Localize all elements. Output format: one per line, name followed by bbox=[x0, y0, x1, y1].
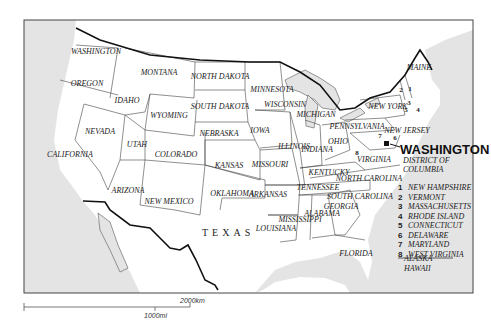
state-label: CALIFORNIA bbox=[47, 151, 93, 159]
legend-label: CONNECTICUT bbox=[406, 221, 463, 230]
legend-number: 6 bbox=[398, 231, 406, 241]
state-label: WASHINGTON bbox=[71, 48, 121, 56]
state-number-marker: 7 bbox=[378, 132, 382, 140]
state-label: LOUISIANA bbox=[256, 225, 296, 233]
legend-item: 2 VERMONT bbox=[398, 193, 471, 203]
state-label: OHIO bbox=[328, 138, 348, 146]
legend-number: 5 bbox=[398, 221, 406, 231]
state-label: VIRGINIA bbox=[357, 156, 391, 164]
legend-number: 4 bbox=[398, 212, 406, 222]
legend-number: 2 bbox=[398, 193, 406, 203]
numbered-legend: 1 NEW HAMPSHIRE2 VERMONT3 MASSACHUSETTS4… bbox=[398, 183, 471, 259]
legend-number: 7 bbox=[398, 240, 406, 250]
state-label: NEW YORK bbox=[368, 103, 407, 111]
capital-subtitle: DISTRICT OF COLUMBIA bbox=[403, 156, 491, 174]
state-label: OREGON bbox=[71, 80, 103, 88]
state-label: MISSOURI bbox=[252, 161, 288, 169]
legend-item: 7 MARYLAND bbox=[398, 240, 471, 250]
scale-bar bbox=[24, 303, 190, 311]
state-label: MINNESOTA bbox=[250, 86, 293, 94]
legend-label: VERMONT bbox=[406, 193, 445, 202]
state-label: ARIZONA bbox=[112, 187, 145, 195]
state-label: SOUTH DAKOTA bbox=[191, 103, 249, 111]
legend-label: MASSACHUSETTS bbox=[406, 202, 471, 211]
legend-label: DELAWARE bbox=[406, 231, 448, 240]
state-number-marker: 5 bbox=[404, 106, 408, 114]
state-number-marker: 6 bbox=[393, 134, 397, 142]
state-label: NEVADA bbox=[85, 128, 115, 136]
legend-item: 3 MASSACHUSETTS bbox=[398, 202, 471, 212]
legend-label: NEW HAMPSHIRE bbox=[406, 183, 471, 192]
state-label: IDAHO bbox=[115, 97, 140, 105]
state-label: COLORADO bbox=[155, 151, 198, 159]
state-label: TENNESSEE bbox=[297, 184, 340, 192]
legend-label: RHODE ISLAND bbox=[406, 212, 464, 221]
state-number-marker: 2 bbox=[399, 86, 403, 94]
legend-label: MARYLAND bbox=[406, 240, 449, 249]
state-label: KANSAS bbox=[215, 162, 243, 170]
state-label: SOUTH CAROLINA bbox=[327, 193, 393, 201]
state-number-marker: 4 bbox=[416, 106, 420, 114]
state-label: PENNSYLVANIA bbox=[329, 123, 384, 131]
extra-states: ALASKA HAWAII bbox=[404, 254, 432, 274]
state-label: NORTH DAKOTA bbox=[191, 73, 250, 81]
state-label: TEXAS bbox=[202, 227, 254, 238]
state-label: UTAH bbox=[127, 141, 147, 149]
legend-number: 1 bbox=[398, 183, 406, 193]
state-label: ALABAMA bbox=[304, 210, 340, 218]
scale-km-label: 2000km bbox=[180, 297, 205, 304]
state-label: FLORIDA bbox=[339, 250, 372, 258]
state-number-marker: 8 bbox=[355, 149, 359, 157]
legend-item: 5 CONNECTICUT bbox=[398, 221, 471, 231]
state-label: IOWA bbox=[250, 127, 269, 135]
state-label: NORTH CAROLINA bbox=[336, 175, 402, 183]
state-label: WYOMING bbox=[150, 112, 187, 120]
capital-label: WASHINGTON bbox=[400, 142, 489, 157]
legend-item: 1 NEW HAMPSHIRE bbox=[398, 183, 471, 193]
legend-item: 6 DELAWARE bbox=[398, 231, 471, 241]
state-label: MICHIGAN bbox=[296, 111, 335, 119]
legend-item: 4 RHODE ISLAND bbox=[398, 212, 471, 222]
state-label: WISCONSIN bbox=[264, 101, 306, 109]
hawaii-label: HAWAII bbox=[404, 264, 432, 274]
state-label: NEW JERSEY bbox=[384, 127, 430, 135]
state-label: MONTANA bbox=[141, 69, 178, 77]
scale-mi-label: 1000mi bbox=[144, 312, 167, 319]
dc-marker bbox=[384, 141, 389, 146]
state-label: INDIANA bbox=[301, 146, 333, 154]
state-label: MAINE bbox=[407, 64, 431, 72]
state-number-marker: 1 bbox=[408, 85, 412, 93]
state-label: NEBRASKA bbox=[199, 130, 238, 138]
state-label: OKLAHOMA bbox=[210, 190, 254, 198]
state-label: NEW MEXICO bbox=[144, 198, 193, 206]
alaska-label: ALASKA bbox=[404, 254, 432, 264]
state-label: ARKANSAS bbox=[249, 191, 287, 199]
legend-number: 3 bbox=[398, 202, 406, 212]
state-label: GEORGIA bbox=[324, 203, 359, 211]
